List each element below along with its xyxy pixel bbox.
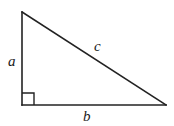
label-b: b [83,108,91,124]
right-triangle-diagram: a b c [0,0,174,126]
label-c: c [94,38,101,54]
side-c-hypotenuse [22,12,166,105]
label-a: a [8,53,16,69]
right-angle-marker [22,93,34,105]
